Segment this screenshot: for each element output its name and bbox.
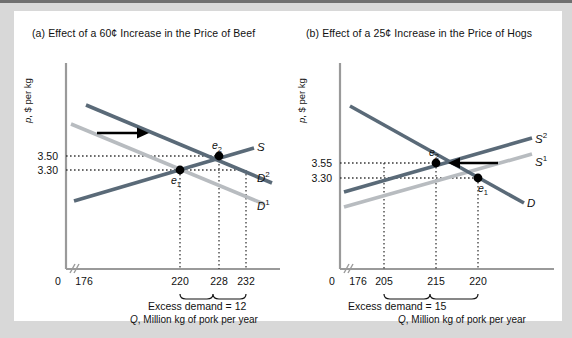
- panel-a-excess-demand-brace: [180, 294, 246, 299]
- panel-a-eq-label-e2-sub: 2: [218, 145, 222, 154]
- panel-a-curve-label-d1: D1: [257, 198, 270, 212]
- figure-root: (a) Effect of a 60¢ Increase in the Pric…: [0, 0, 572, 338]
- panel-a-x-tick-0: 0: [49, 275, 67, 287]
- panel-b: (b) Effect of a 25¢ Increase in the Pric…: [288, 11, 562, 321]
- panel-b-curve-label-s2-sup: 2: [543, 131, 547, 140]
- panel-a-x-tick-232: 232: [232, 275, 260, 287]
- panel-a-curve-label-d2: D2: [257, 170, 270, 184]
- panel-b-curve-label-d-text: D: [527, 197, 535, 209]
- panel-b-x-tick-215: 215: [422, 275, 450, 287]
- panel-b-x-axis-caption-units: , Million kg of pork per year: [406, 314, 526, 325]
- panel-a-x-axis-caption-units: , Million kg of pork per year: [138, 314, 258, 325]
- panel-b-price-tick-330: 3.30: [294, 172, 332, 184]
- panel-a-curve-label-d2-sup: 2: [265, 170, 269, 179]
- panel-a-x-tick-176: 176: [70, 275, 98, 287]
- panel-b-x-tick-0: 0: [323, 275, 341, 287]
- panel-b-eq-label-e2-sub: 2: [435, 152, 439, 161]
- panel-b-x-axis-caption-symbol: Q: [398, 314, 406, 325]
- panel-a-price-tick-350: 3.50: [20, 150, 58, 162]
- panel-b-x-tick-176: 176: [344, 275, 372, 287]
- panel-b-curve-label-s1-sup: 1: [543, 154, 547, 163]
- panel-a-curve-s: [74, 148, 254, 201]
- panel-b-x-axis-caption: Q, Million kg of pork per year: [398, 314, 526, 325]
- panel-a: (a) Effect of a 60¢ Increase in the Pric…: [14, 11, 288, 321]
- panel-a-eq-label-e1-sub: 1: [177, 180, 181, 189]
- panel-b-eq-label-e2: e2: [429, 146, 439, 161]
- panel-b-eq-label-e1: e1: [478, 182, 488, 197]
- panel-a-x-axis-caption-symbol: Q: [130, 314, 138, 325]
- panel-b-excess-demand-note: Excess demand = 15: [348, 300, 446, 312]
- panel-a-curve-label-s: S: [257, 141, 265, 153]
- panel-a-curve-label-s-text: S: [257, 141, 265, 153]
- figure-canvas: (a) Effect of a 60¢ Increase in the Pric…: [14, 11, 562, 321]
- panel-b-eq-label-e1-sub: 1: [484, 188, 488, 197]
- panel-a-x-axis-caption: Q, Million kg of pork per year: [130, 314, 258, 325]
- panel-a-eq-label-e2: e2: [212, 139, 222, 154]
- panel-b-x-tick-220: 220: [464, 275, 492, 287]
- panel-b-price-tick-355: 3.55: [294, 157, 332, 169]
- panel-a-excess-demand-note: Excess demand = 12: [148, 300, 246, 312]
- panel-b-x-tick-205: 205: [370, 275, 398, 287]
- panel-a-price-tick-330: 3.30: [20, 164, 58, 176]
- panel-b-curve-label-s1: S1: [535, 154, 547, 168]
- panel-b-excess-demand-brace: [384, 294, 478, 299]
- panel-a-eq-label-e1: e1: [171, 174, 181, 189]
- panel-b-curve-label-s2: S2: [535, 131, 547, 145]
- panel-a-x-tick-228: 228: [205, 275, 233, 287]
- panel-a-x-tick-220: 220: [166, 275, 194, 287]
- panel-b-curve-label-s2-text: S: [535, 133, 543, 145]
- panel-b-curve-label-s1-text: S: [535, 156, 543, 168]
- panel-a-curve-label-d1-sup: 1: [265, 198, 269, 207]
- panel-b-curve-label-d: D: [527, 197, 535, 209]
- figure-top-rule: [0, 0, 572, 3]
